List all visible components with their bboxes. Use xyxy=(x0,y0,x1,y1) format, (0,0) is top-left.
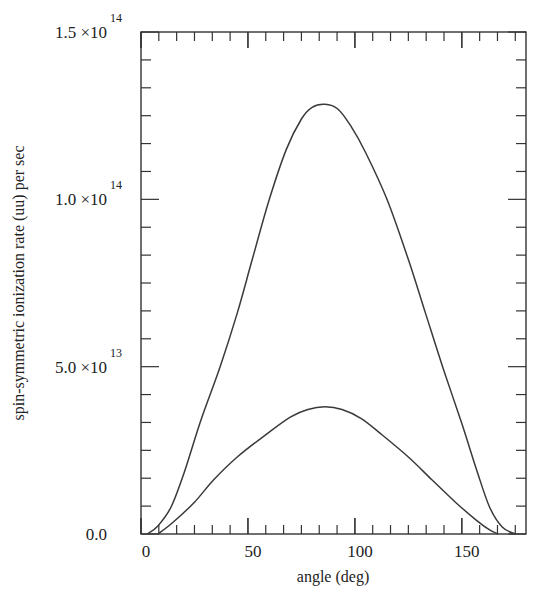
x-tick-label: 50 xyxy=(244,542,261,561)
lower-curve xyxy=(158,407,498,534)
x-tick-labels: 050100150 xyxy=(142,542,480,561)
y-tick-exponent: 14 xyxy=(110,11,122,25)
chart: 050100150 0.05.0 ×10131.0 ×10141.5 ×1014… xyxy=(0,0,533,595)
y-axis-label: spin-symmetric ionization rate (uu) per … xyxy=(10,145,28,420)
y-tick-labels: 0.05.0 ×10131.0 ×10141.5 ×1014 xyxy=(55,11,122,544)
plot-frame xyxy=(141,32,526,534)
x-tick-label: 150 xyxy=(454,542,480,561)
curves xyxy=(147,104,515,534)
x-axis-label: angle (deg) xyxy=(297,568,369,586)
x-tick-label: 100 xyxy=(347,542,373,561)
y-tick-label: 1.0 ×10 xyxy=(55,190,107,209)
y-tick-exponent: 14 xyxy=(110,178,122,192)
y-tick-label: 0.0 xyxy=(86,525,107,544)
y-tick-label: 1.5 ×10 xyxy=(55,23,107,42)
x-tick-label: 0 xyxy=(142,542,151,561)
upper-curve xyxy=(147,104,515,534)
y-tick-label: 5.0 ×10 xyxy=(55,358,107,377)
axis-ticks xyxy=(141,32,526,534)
y-tick-exponent: 13 xyxy=(110,346,122,360)
